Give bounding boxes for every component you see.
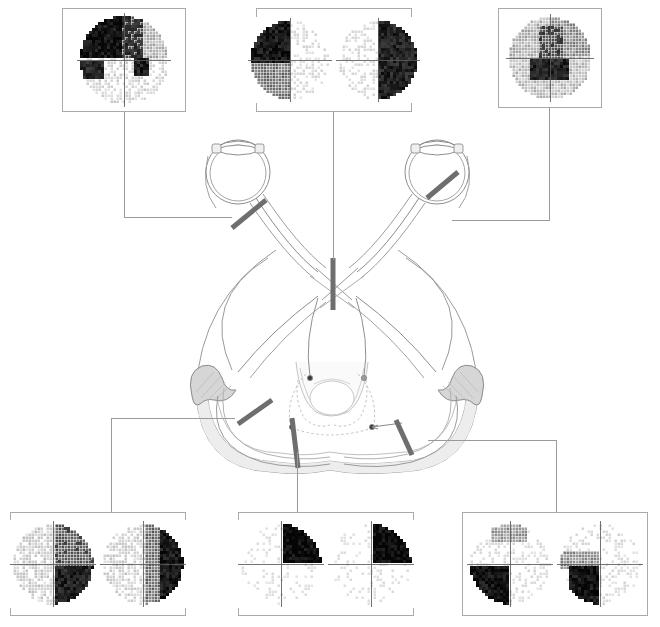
connector-bottom-left bbox=[111, 418, 112, 512]
right-eye bbox=[405, 140, 470, 208]
connector-top-right bbox=[549, 108, 550, 220]
visual-field-plot-right-eye bbox=[556, 520, 644, 608]
edinger-westphal-left bbox=[289, 424, 294, 429]
lesion-bar-parietal-radiation bbox=[396, 420, 412, 455]
left-optic-nerve bbox=[250, 194, 326, 278]
visual-field-parietal-radiation-lesion[interactable] bbox=[462, 512, 648, 616]
right-optic-tract bbox=[348, 296, 436, 378]
visual-field-plot-right-eye bbox=[327, 520, 415, 608]
left-lateral-geniculate-nucleus bbox=[190, 365, 236, 405]
connector-bottom-right bbox=[556, 440, 557, 512]
connector-top-center bbox=[333, 112, 334, 260]
visual-field-plot-right-eye bbox=[505, 13, 595, 103]
connector-bottom-left bbox=[111, 418, 235, 419]
visual-field-plot-right-eye bbox=[99, 520, 187, 608]
visual-field-plot-left-eye bbox=[76, 12, 172, 108]
visual-pathway-diagram bbox=[0, 0, 660, 627]
connector-bottom-right bbox=[428, 440, 556, 441]
connector-top-right bbox=[452, 220, 550, 221]
connector-top-left bbox=[124, 112, 125, 217]
pretectal-nucleus-left bbox=[307, 375, 312, 380]
visual-field-right-optic-nerve-lesion[interactable] bbox=[498, 8, 602, 108]
pupil-loop-right bbox=[332, 380, 367, 426]
visual-field-plot-left-eye bbox=[247, 17, 333, 103]
visual-field-plot-left-eye bbox=[9, 520, 97, 608]
occipital-cortex bbox=[196, 392, 478, 474]
right-optic-radiation bbox=[344, 388, 458, 467]
right-lateral-geniculate-nucleus bbox=[438, 365, 484, 405]
lesion-bar-left-optic-nerve bbox=[232, 200, 266, 228]
visual-field-plot-left-eye bbox=[466, 520, 554, 608]
pretectal-nucleus-right bbox=[361, 375, 366, 380]
edinger-westphal-right bbox=[369, 424, 374, 429]
left-eye bbox=[205, 140, 270, 208]
connector-bottom-center bbox=[297, 452, 298, 512]
left-optic-tract bbox=[238, 296, 326, 378]
visual-field-plot-left-eye bbox=[237, 520, 325, 608]
midbrain bbox=[289, 298, 374, 435]
lesion-bar-right-optic-nerve bbox=[427, 172, 458, 198]
visual-field-chiasm-lesion[interactable] bbox=[256, 8, 412, 112]
visual-field-optic-tract-lesion[interactable] bbox=[10, 512, 186, 616]
right-optic-nerve bbox=[349, 194, 425, 278]
visual-field-temporal-radiation-lesion[interactable] bbox=[238, 512, 414, 616]
optic-chiasm bbox=[310, 268, 364, 308]
left-optic-radiation bbox=[216, 388, 330, 467]
connector-top-left bbox=[124, 217, 232, 218]
visual-field-plot-right-eye bbox=[335, 17, 421, 103]
pupil-loop-left bbox=[297, 380, 332, 426]
visual-field-left-optic-nerve-lesion[interactable] bbox=[62, 8, 186, 112]
lesion-bar-left-optic-tract bbox=[238, 400, 272, 424]
